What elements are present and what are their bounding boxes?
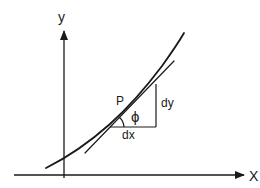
tangent-slope-diagram: X y P ϕ dx dy — [0, 0, 260, 188]
point-label: P — [116, 94, 124, 108]
dx-label: dx — [122, 128, 135, 142]
dy-label: dy — [161, 96, 174, 110]
angle-arc — [119, 117, 124, 127]
angle-label: ϕ — [131, 108, 139, 125]
y-axis-label: y — [58, 9, 65, 25]
x-axis-label: X — [249, 168, 259, 184]
